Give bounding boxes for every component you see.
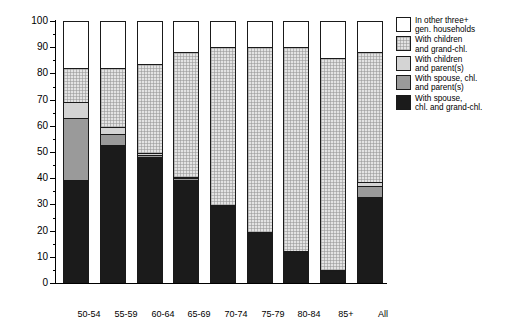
bar-60-64 bbox=[137, 21, 163, 283]
y-tick-80 bbox=[50, 73, 56, 74]
legend-label: In other three+ gen. households bbox=[415, 16, 475, 34]
legend-item-0[interactable]: In other three+ gen. households bbox=[396, 16, 508, 34]
bar-segment-children-grandchl bbox=[247, 47, 273, 232]
bar-75-79 bbox=[247, 21, 273, 283]
bar-80-84 bbox=[283, 21, 309, 283]
bar-55-59 bbox=[100, 21, 126, 283]
x-tick-label-All: All bbox=[353, 310, 413, 319]
bar-segment-other-three-gen bbox=[357, 21, 383, 52]
y-tick-85 bbox=[53, 60, 56, 61]
y-tick-50 bbox=[50, 152, 56, 153]
y-tick-55 bbox=[53, 139, 56, 140]
y-tick-100 bbox=[50, 21, 56, 22]
legend-label: With children and parent(s) bbox=[415, 55, 464, 73]
y-tick-40 bbox=[50, 178, 56, 179]
chart-legend: In other three+ gen. householdsWith chil… bbox=[396, 16, 508, 113]
bar-segment-children-grandchl bbox=[357, 52, 383, 182]
bar-segment-spouse-chl-grandchl bbox=[210, 207, 236, 283]
bar-segment-spouse-chl-grandchl bbox=[357, 197, 383, 283]
bar-All bbox=[357, 21, 383, 283]
y-tick-75 bbox=[53, 87, 56, 88]
y-tick-label-50: 50 bbox=[37, 147, 48, 157]
bar-segment-children-grandchl bbox=[283, 47, 309, 252]
bar-50-54 bbox=[63, 21, 89, 283]
bar-segment-spouse-chl-parents bbox=[357, 186, 383, 196]
y-tick-label-0: 0 bbox=[42, 278, 48, 288]
legend-swatch-icon bbox=[396, 17, 411, 32]
bar-segment-spouse-chl-grandchl bbox=[137, 157, 163, 283]
bar-segment-spouse-chl-grandchl bbox=[283, 253, 309, 283]
legend-swatch-icon bbox=[396, 75, 411, 90]
legend-label: With children and grand-chl. bbox=[415, 35, 467, 53]
bar-segment-spouse-chl-grandchl bbox=[100, 145, 126, 283]
legend-item-3[interactable]: With spouse, chl. and parent(s) bbox=[396, 74, 508, 92]
legend-label: With spouse, chl. and grand-chl. bbox=[415, 94, 482, 112]
y-tick-70 bbox=[50, 100, 56, 101]
legend-item-1[interactable]: With children and grand-chl. bbox=[396, 35, 508, 53]
bar-segment-spouse-chl-parents bbox=[63, 118, 89, 180]
y-tick-label-10: 10 bbox=[37, 252, 48, 262]
x-axis-spine bbox=[55, 283, 387, 284]
bar-segment-other-three-gen bbox=[247, 21, 273, 47]
bar-segment-spouse-chl-grandchl bbox=[63, 180, 89, 283]
bar-segment-children-grandchl bbox=[137, 64, 163, 153]
y-tick-65 bbox=[53, 113, 56, 114]
bar-segment-spouse-chl-grandchl bbox=[173, 180, 199, 283]
bar-segment-children-grandchl bbox=[210, 47, 236, 206]
y-tick-35 bbox=[53, 191, 56, 192]
bar-segment-spouse-chl-parents bbox=[100, 134, 126, 146]
bar-segment-other-three-gen bbox=[320, 21, 346, 58]
bar-segment-other-three-gen bbox=[210, 21, 236, 47]
y-tick-label-30: 30 bbox=[37, 199, 48, 209]
legend-swatch-icon bbox=[396, 36, 411, 51]
legend-item-2[interactable]: With children and parent(s) bbox=[396, 55, 508, 73]
y-tick-60 bbox=[50, 126, 56, 127]
legend-swatch-icon bbox=[396, 56, 411, 71]
bar-segment-other-three-gen bbox=[283, 21, 309, 47]
y-tick-20 bbox=[50, 231, 56, 232]
y-tick-label-70: 70 bbox=[37, 95, 48, 105]
bar-segment-children-grandchl bbox=[100, 68, 126, 127]
bar-70-74 bbox=[210, 21, 236, 283]
bar-segment-other-three-gen bbox=[173, 21, 199, 52]
y-tick-5 bbox=[53, 270, 56, 271]
y-tick-label-40: 40 bbox=[37, 173, 48, 183]
bar-segment-spouse-chl-grandchl bbox=[320, 271, 346, 283]
bar-segment-children-parents bbox=[63, 102, 89, 118]
y-tick-label-90: 90 bbox=[37, 42, 48, 52]
y-tick-95 bbox=[53, 34, 56, 35]
legend-item-4[interactable]: With spouse, chl. and grand-chl. bbox=[396, 94, 508, 112]
y-tick-25 bbox=[53, 218, 56, 219]
y-tick-label-20: 20 bbox=[37, 226, 48, 236]
y-tick-label-60: 60 bbox=[37, 121, 48, 131]
bar-65-69 bbox=[173, 21, 199, 283]
y-tick-10 bbox=[50, 257, 56, 258]
bar-85plus bbox=[320, 21, 346, 283]
legend-swatch-icon bbox=[396, 95, 411, 110]
y-tick-label-80: 80 bbox=[37, 68, 48, 78]
y-tick-0 bbox=[50, 283, 56, 284]
y-tick-30 bbox=[50, 204, 56, 205]
bar-segment-children-grandchl bbox=[320, 58, 346, 271]
bar-segment-children-grandchl bbox=[63, 68, 89, 102]
y-tick-90 bbox=[50, 47, 56, 48]
plot-area: 0102030405060708090100 50-5455-5960-6465… bbox=[56, 21, 386, 283]
bar-segment-children-grandchl bbox=[173, 52, 199, 177]
bar-segment-other-three-gen bbox=[137, 21, 163, 64]
bar-segment-spouse-chl-grandchl bbox=[247, 233, 273, 283]
y-tick-45 bbox=[53, 165, 56, 166]
legend-label: With spouse, chl. and parent(s) bbox=[415, 74, 477, 92]
y-tick-label-100: 100 bbox=[31, 16, 48, 26]
y-tick-15 bbox=[53, 244, 56, 245]
bar-segment-other-three-gen bbox=[100, 21, 126, 68]
bar-segment-other-three-gen bbox=[63, 21, 89, 68]
